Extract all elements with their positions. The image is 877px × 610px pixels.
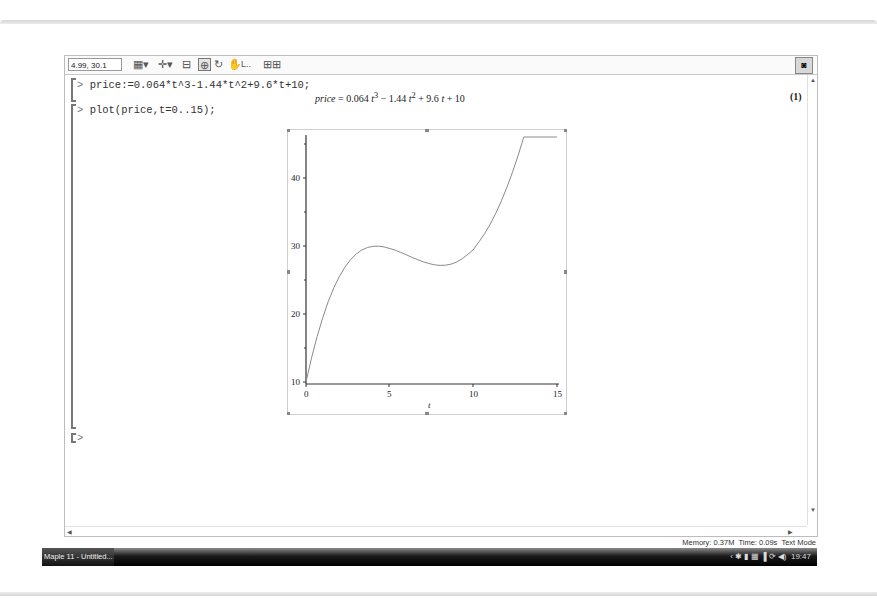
input-2-text[interactable]: plot(price,t=0..15); xyxy=(90,104,216,116)
prompt-icon: > xyxy=(77,104,83,116)
output-part: = 0.064 xyxy=(336,93,372,104)
pan-icon[interactable]: ✋ xyxy=(228,58,242,71)
group-bracket-1[interactable] xyxy=(71,78,73,102)
output-part: + 9.6 xyxy=(416,93,442,104)
horizontal-scrollbar[interactable]: ◀ ▶ xyxy=(65,526,807,536)
scroll-right-icon[interactable]: ▶ xyxy=(788,528,793,535)
scroll-down-icon[interactable]: ▼ xyxy=(810,507,816,513)
input-line-1[interactable]: > price:=0.064*t^3-1.44*t^2+9.6*t+10; xyxy=(77,79,310,91)
output-lhs: price xyxy=(315,93,336,104)
axes-menu-icon[interactable]: ✛▾ xyxy=(158,58,173,71)
scale-plot-icon[interactable]: L.. xyxy=(241,58,251,71)
input-line-2[interactable]: > plot(price,t=0..15); xyxy=(77,104,216,116)
group-bracket-2[interactable] xyxy=(71,104,73,429)
input-line-3[interactable]: > xyxy=(77,432,83,444)
scroll-left-icon[interactable]: ◀ xyxy=(67,528,72,535)
group-bracket-3[interactable] xyxy=(71,433,73,443)
resize-handles xyxy=(287,129,567,415)
time-status: Time: 0.09s xyxy=(738,538,777,547)
svg-text:30: 30 xyxy=(291,241,301,251)
output-part: − 1.44 xyxy=(378,93,409,104)
coordinates-display: 4.99, 30.1 xyxy=(68,58,122,71)
equation-label: (1) xyxy=(790,91,802,102)
svg-text:40: 40 xyxy=(291,173,301,183)
prompt-icon: > xyxy=(77,432,83,444)
output-part: + 10 xyxy=(444,93,465,104)
scale-icon[interactable]: ⊟ xyxy=(182,58,191,71)
svg-text:15: 15 xyxy=(553,389,563,399)
svg-text:10: 10 xyxy=(291,377,301,387)
outer-frame-bottom xyxy=(0,592,877,596)
output-equation: price = 0.064 t3 − 1.44 t2 + 9.6 t + 10 xyxy=(315,91,465,104)
worksheet[interactable]: > price:=0.064*t^3-1.44*t^2+9.6*t+10; pr… xyxy=(65,75,807,525)
tray-icons[interactable]: ‹ ✱ ▮ ▦ ▐ ⟳ ◀) xyxy=(730,552,786,561)
scroll-up-icon[interactable]: ▲ xyxy=(810,77,816,83)
point-probe-icon[interactable]: ⊕ xyxy=(198,58,211,71)
system-tray: ‹ ✱ ▮ ▦ ▐ ⟳ ◀) 19:47 xyxy=(730,548,811,566)
taskbar: Maple 11 - Untitled... ‹ ✱ ▮ ▦ ▐ ⟳ ◀) 19… xyxy=(42,548,817,566)
price-curve xyxy=(306,137,557,382)
clock[interactable]: 19:47 xyxy=(791,552,811,561)
memory-status: Memory: 0.37M xyxy=(682,538,734,547)
input-1-text[interactable]: price:=0.064*t^3-1.44*t^2+9.6*t+10; xyxy=(90,79,311,91)
svg-text:0: 0 xyxy=(304,389,309,399)
svg-text:20: 20 xyxy=(291,309,301,319)
mode-status[interactable]: Text Mode xyxy=(781,538,816,547)
toolbar-options-button[interactable]: ◙ xyxy=(795,57,813,74)
plot-region[interactable]: 10203040 051015 t xyxy=(287,129,567,415)
grid-lines-icon[interactable]: ⊞⊞ xyxy=(263,58,281,71)
rotate-icon[interactable]: ↻ xyxy=(214,58,223,71)
svg-text:t: t xyxy=(428,400,431,410)
grid-menu-icon[interactable]: ▦▾ xyxy=(133,58,149,71)
status-bar: Memory: 0.37M Time: 0.09s Text Mode xyxy=(600,538,816,547)
vertical-scrollbar[interactable]: ▲ ▼ xyxy=(807,75,817,525)
outer-frame-top xyxy=(0,20,877,24)
maple-window: 4.99, 30.1 ▦▾ ✛▾ ⊟ ⊕ ↻ ✋ L.. ⊞⊞ ◙ > pric… xyxy=(64,55,818,537)
svg-text:10: 10 xyxy=(469,389,479,399)
svg-text:5: 5 xyxy=(387,389,392,399)
plot-toolbar: 4.99, 30.1 ▦▾ ✛▾ ⊟ ⊕ ↻ ✋ L.. ⊞⊞ ◙ xyxy=(65,56,817,75)
prompt-icon: > xyxy=(77,79,83,91)
taskbar-item-maple[interactable]: Maple 11 - Untitled... xyxy=(42,548,114,566)
